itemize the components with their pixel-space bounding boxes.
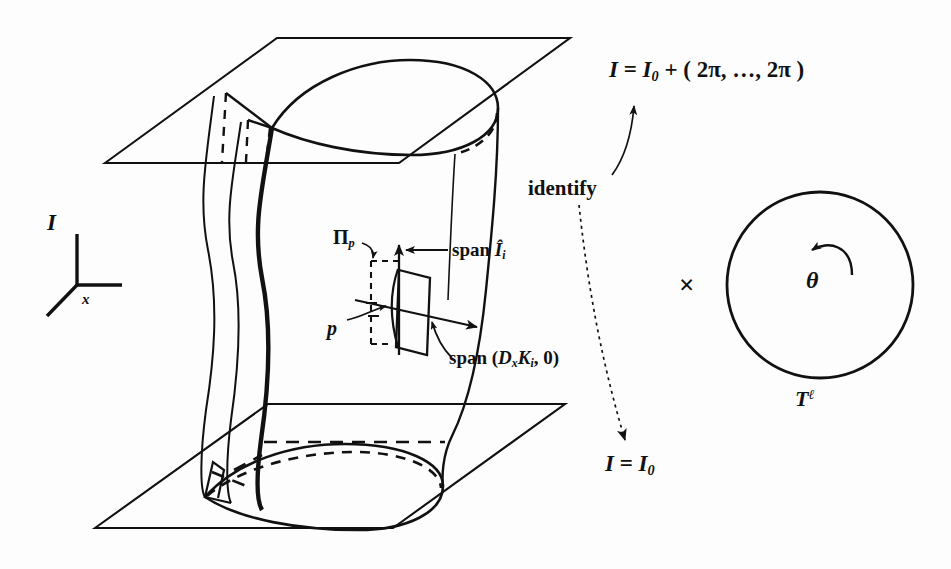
point-p-label: p xyxy=(327,318,337,338)
cross-product-icon: × xyxy=(679,272,694,299)
top-identification-label: I = I0 + ( 2π, …, 2π ) xyxy=(609,58,804,83)
top-loop xyxy=(272,60,498,155)
axis-label-x: x xyxy=(82,292,90,307)
identify-arc-lower xyxy=(579,205,625,440)
bottom-loop-hidden xyxy=(207,452,441,496)
span-DxK-label: span (DxKi, 0) xyxy=(449,348,559,370)
span-DK-direction-arrow xyxy=(355,300,477,327)
torus-circle xyxy=(727,192,913,378)
pi-p-label: Πp xyxy=(333,227,355,250)
axis-label-I: I xyxy=(47,211,56,234)
identify-arc-upper xyxy=(612,106,634,175)
math-figure: I = I0 + ( 2π, …, 2π ) identify I = I0 I… xyxy=(0,0,951,569)
bottom-identification-label: I = I0 xyxy=(605,452,655,477)
torus-label: Tℓ xyxy=(795,388,814,410)
identify-label: identify xyxy=(528,178,597,199)
pi-p-leader xyxy=(362,243,373,258)
bottom-plane xyxy=(95,404,565,528)
span-I-hat-label: span Îi xyxy=(452,240,505,262)
cylinder-bottom-hidden-edge xyxy=(212,442,445,486)
top-plane xyxy=(105,38,570,163)
theta-label: θ xyxy=(806,268,818,292)
p-leader xyxy=(347,306,386,320)
cylinder-hidden-top xyxy=(222,93,270,162)
